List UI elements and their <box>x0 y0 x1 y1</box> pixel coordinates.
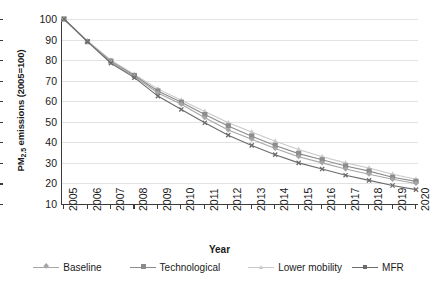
x-axis-tick-mark <box>180 204 181 209</box>
y-axis-tick-label: 60 <box>3 95 57 107</box>
x-axis-tick-label: 2005 <box>67 188 79 211</box>
x-axis-tick-label: 2020 <box>419 188 431 211</box>
x-axis-tick-mark <box>392 204 393 209</box>
x-axis-tick-label: 2014 <box>278 188 290 211</box>
y-axis-tick-label: 90 <box>3 34 57 46</box>
x-axis-tick-label: 2007 <box>114 188 126 211</box>
y-axis-tick-label: 70 <box>3 75 57 87</box>
x-axis-tick-mark <box>274 204 275 209</box>
x-axis-tick-mark <box>368 204 369 209</box>
x-axis-ticks: 2005200620072008200920102011201220132014… <box>61 204 417 246</box>
legend-label: Technological <box>160 262 223 273</box>
x-axis-title: Year <box>0 244 439 255</box>
legend-item-baseline[interactable]: Baseline <box>33 262 103 273</box>
x-axis-tick-mark <box>157 204 158 209</box>
x-axis-tick-mark <box>415 204 416 209</box>
legend-swatch-icon <box>33 262 59 272</box>
y-axis-tick-label: 100 <box>3 13 57 25</box>
x-axis-tick-label: 2017 <box>349 188 361 211</box>
y-axis-tick-label: 20 <box>3 177 57 189</box>
data-point-marker <box>226 133 230 137</box>
x-axis-tick-label: 2006 <box>91 188 103 211</box>
legend-swatch-icon <box>130 262 156 272</box>
series-mfr <box>62 17 418 192</box>
legend-label: Baseline <box>63 262 103 273</box>
x-axis-tick-label: 2013 <box>255 188 267 211</box>
series-line <box>64 19 416 190</box>
x-axis-tick-label: 2011 <box>208 188 220 211</box>
series-line <box>64 19 416 181</box>
legend-item-lower-mobility[interactable]: Lower mobility <box>248 262 344 273</box>
chart-legend: BaselineTechnologicalLower mobilityMFR <box>0 259 439 275</box>
y-axis-tick-label: 10 <box>3 198 57 210</box>
series-line <box>64 19 416 179</box>
x-axis-tick-mark <box>133 204 134 209</box>
x-axis-tick-label: 2010 <box>184 188 196 211</box>
x-axis-tick-label: 2018 <box>372 188 384 211</box>
legend-item-technological[interactable]: Technological <box>130 262 223 273</box>
y-axis-tick-label: 30 <box>3 157 57 169</box>
data-point-marker <box>203 121 207 125</box>
x-axis-tick-mark <box>345 204 346 209</box>
series-technological <box>61 16 418 184</box>
x-axis-tick-label: 2016 <box>325 188 337 211</box>
series-line <box>64 19 416 183</box>
x-axis-tick-label: 2009 <box>161 188 173 211</box>
x-axis-tick-mark <box>321 204 322 209</box>
x-axis-tick-mark <box>298 204 299 209</box>
plot-area <box>61 19 418 205</box>
x-axis-tick-label: 2015 <box>302 188 314 211</box>
x-axis-tick-mark <box>204 204 205 209</box>
y-axis-tick-label: 50 <box>3 116 57 128</box>
x-axis-tick-mark <box>87 204 88 209</box>
chart-series-svg <box>62 19 418 204</box>
series-lower-mobility <box>61 16 419 182</box>
legend-label: MFR <box>382 262 406 273</box>
x-axis-tick-mark <box>251 204 252 209</box>
y-axis-ticks: 100908070605040302010 <box>0 19 57 204</box>
legend-item-mfr[interactable]: MFR <box>352 262 406 273</box>
data-point-marker <box>179 107 183 111</box>
chart-figure: PM2.5 emissions (2005=100) 1009080706050… <box>0 0 439 284</box>
x-axis-tick-mark <box>63 204 64 209</box>
x-axis-tick-label: 2008 <box>137 188 149 211</box>
series-baseline <box>61 16 418 186</box>
legend-label: Lower mobility <box>278 262 344 273</box>
x-axis-tick-mark <box>227 204 228 209</box>
x-axis-tick-label: 2019 <box>396 188 408 211</box>
legend-swatch-icon <box>248 262 274 272</box>
x-axis-tick-label: 2012 <box>231 188 243 211</box>
legend-swatch-icon <box>352 262 378 272</box>
y-axis-tick-label: 40 <box>3 136 57 148</box>
x-axis-tick-mark <box>110 204 111 209</box>
y-axis-tick-label: 80 <box>3 54 57 66</box>
